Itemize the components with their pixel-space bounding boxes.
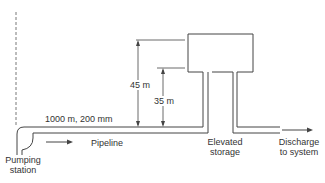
- pumping-system-diagram: 1000 m, 200 mm Pipeline Pumping station …: [0, 0, 325, 183]
- discharge-label-line2: to system: [276, 147, 322, 157]
- height-35m-label: 35 m: [153, 96, 175, 106]
- outlet-pipe-inner: [237, 72, 280, 127]
- outlet-pipe-outer: [233, 72, 280, 133]
- dim-35m-arrow-up: [161, 68, 165, 74]
- flow-arrow-head: [67, 140, 73, 145]
- height-45m-label: 45 m: [129, 80, 151, 90]
- pumping-station-label: Pumping station: [3, 155, 43, 175]
- pumping-station-label-line1: Pumping: [3, 155, 43, 165]
- pumping-station-label-line2: station: [3, 165, 43, 175]
- discharge-label: Discharge to system: [276, 137, 322, 157]
- pipe-spec-label: 1000 m, 200 mm: [45, 114, 113, 124]
- dim-45m-arrow-down: [136, 121, 140, 127]
- elevated-storage-label-line1: Elevated: [205, 137, 245, 147]
- dim-35m-arrow-down: [161, 121, 165, 127]
- dim-45m-arrow-up: [136, 40, 140, 46]
- discharge-arrow-head: [307, 128, 313, 133]
- elevated-storage-label: Elevated storage: [205, 137, 245, 157]
- elevated-storage-label-line2: storage: [205, 147, 245, 157]
- discharge-label-line1: Discharge: [276, 137, 322, 147]
- elevated-storage-tank: [188, 34, 253, 72]
- pipeline-label: Pipeline: [91, 138, 123, 148]
